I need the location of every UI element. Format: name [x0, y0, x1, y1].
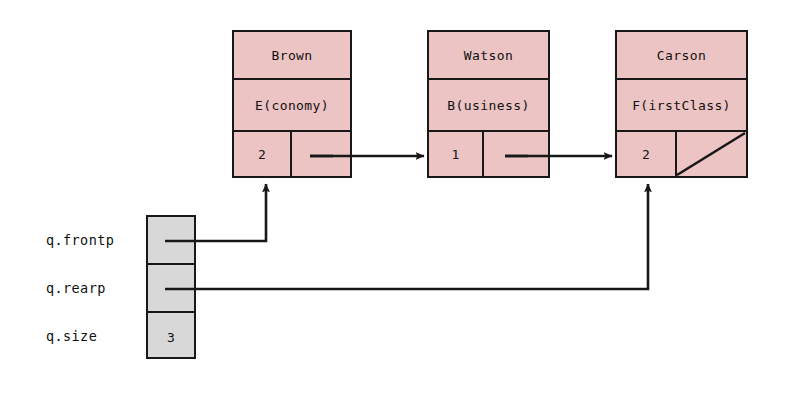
- variable-label-frontp: q.frontp: [46, 232, 114, 248]
- list-node: Watson B(usiness) 1: [427, 30, 550, 178]
- variable-cell-frontp: [148, 217, 194, 265]
- node-name-label: Carson: [617, 32, 746, 80]
- node-bottom-row: 2: [234, 132, 350, 176]
- node-next-pointer-cell: [484, 132, 548, 176]
- variable-cell-rearp: [148, 265, 194, 313]
- list-node: Carson F(irstClass) 2: [615, 30, 748, 178]
- node-next-pointer-cell: [292, 132, 350, 176]
- node-name-label: Brown: [234, 32, 350, 80]
- node-bottom-row: 1: [429, 132, 548, 176]
- node-class-label: F(irstClass): [617, 80, 746, 132]
- node-count-value: 2: [234, 132, 292, 176]
- variable-label-rearp: q.rearp: [46, 280, 106, 296]
- node-null-pointer-cell: [677, 132, 746, 176]
- node-count-value: 2: [617, 132, 677, 176]
- linked-list-queue-diagram: Brown E(conomy) 2 Watson B(usiness) 1 Ca…: [0, 0, 787, 393]
- node-count-value: 1: [429, 132, 484, 176]
- variable-label-size: q.size: [46, 328, 97, 344]
- node-class-label: E(conomy): [234, 80, 350, 132]
- variable-cell-size: 3: [148, 313, 194, 361]
- rearp-pointer-arrow: [165, 184, 648, 289]
- node-name-label: Watson: [429, 32, 548, 80]
- node-bottom-row: 2: [617, 132, 746, 176]
- list-node: Brown E(conomy) 2: [232, 30, 352, 178]
- queue-variable-box: 3: [146, 215, 196, 359]
- node-class-label: B(usiness): [429, 80, 548, 132]
